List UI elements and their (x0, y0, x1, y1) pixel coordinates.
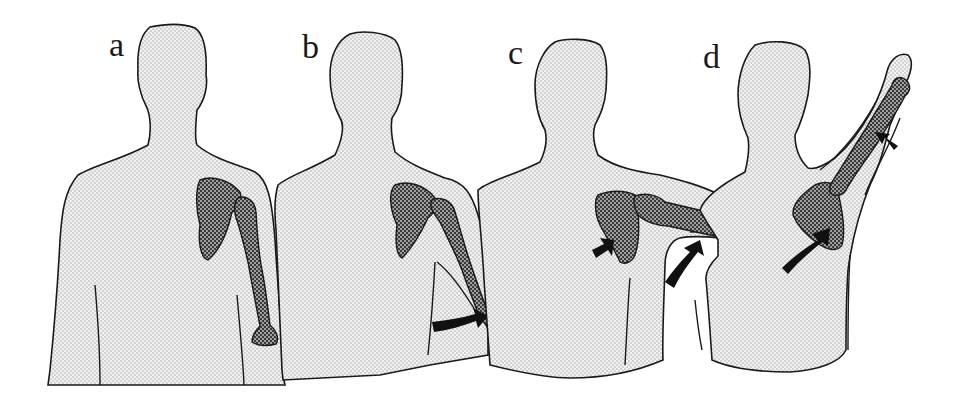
panel-label-c: c (508, 36, 523, 70)
figure-canvas (0, 0, 956, 404)
body-silhouette (275, 32, 505, 380)
panel-label-a: a (109, 28, 124, 62)
panel-label-b: b (302, 30, 319, 64)
panel-label-d: d (703, 40, 720, 74)
panel-b (275, 32, 512, 380)
panel-d (695, 42, 911, 372)
humerus-arrow-icon (665, 240, 704, 288)
torso-left-line (695, 300, 702, 350)
shoulder-abduction-diagram: a b c d (0, 0, 956, 404)
panel-a (48, 24, 285, 385)
